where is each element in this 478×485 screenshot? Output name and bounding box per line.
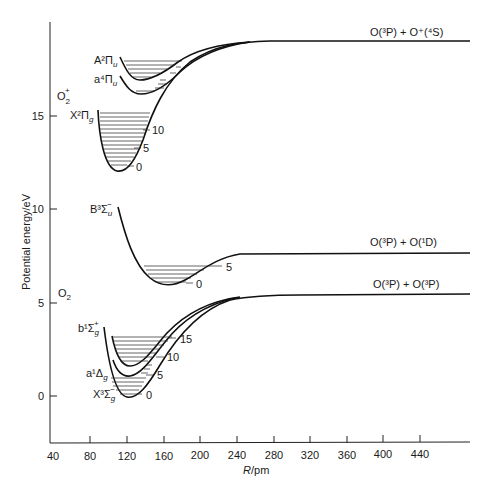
- asymptote-label-top: O(³P) + O⁺(⁴S): [370, 26, 443, 38]
- svg-text:200: 200: [191, 449, 209, 461]
- vib-label-o2-15: 15: [180, 333, 192, 345]
- asymptote-label-mid: O(³P) + O(¹D): [370, 236, 437, 248]
- label-x3sigg: X³Σg−: [93, 385, 116, 403]
- o2-plus-label: O2+: [57, 86, 71, 106]
- label-b1sigg: b¹Σg+: [78, 319, 100, 337]
- vib-label-b3sigu-0: 0: [196, 278, 202, 290]
- asymptote-label-low: O(³P) + O(³P): [373, 278, 439, 290]
- svg-text:360: 360: [338, 449, 356, 461]
- vib-label-o2-0: 0: [146, 389, 152, 401]
- y-ticks: 0 5 10 15: [32, 110, 57, 402]
- svg-text:280: 280: [265, 449, 283, 461]
- svg-text:10: 10: [32, 203, 44, 215]
- svg-text:320: 320: [301, 449, 319, 461]
- vib-label-x2pig-0: 0: [136, 161, 142, 173]
- vib-label-o2-5: 5: [157, 369, 163, 381]
- levels-a4piu: [136, 67, 181, 91]
- label-a2piu: A²Πu: [94, 54, 118, 69]
- curve-a4piu: [120, 42, 250, 94]
- label-a1dg: a¹Δg: [86, 367, 108, 382]
- o2-label: O2: [58, 287, 72, 302]
- potential-energy-chart: 0 5 10 15 40 80 120 160 200 240 280 320 …: [0, 0, 478, 485]
- x-ticks: 40 80 120 160 200 240 280 320 360 400 44…: [47, 435, 429, 462]
- label-a4piu: a⁴Πu: [94, 73, 118, 88]
- svg-text:80: 80: [84, 450, 96, 462]
- svg-text:240: 240: [228, 449, 246, 461]
- svg-text:120: 120: [118, 450, 136, 462]
- svg-text:400: 400: [374, 448, 392, 460]
- label-b3sigu: B³Σu−: [90, 200, 113, 218]
- svg-text:5: 5: [38, 297, 44, 309]
- svg-text:160: 160: [155, 450, 173, 462]
- svg-text:0: 0: [38, 390, 44, 402]
- y-axis-label: Potential energy/eV: [20, 193, 32, 290]
- x-axis-label: R/pm: [243, 464, 269, 476]
- svg-text:15: 15: [32, 110, 44, 122]
- vib-label-x2pig-5: 5: [143, 142, 149, 154]
- vib-label-o2-10: 10: [167, 351, 179, 363]
- levels-a2piu: [124, 61, 182, 77]
- vib-label-x2pig-10: 10: [152, 124, 164, 136]
- svg-text:40: 40: [47, 450, 59, 462]
- label-x2pig: X²Πg: [70, 109, 94, 124]
- curve-x2pig: [98, 41, 470, 171]
- curve-x3sigg: [104, 294, 470, 397]
- svg-text:440: 440: [411, 448, 429, 460]
- x-axis: [50, 442, 470, 443]
- vib-label-b3sigu-5: 5: [226, 261, 232, 273]
